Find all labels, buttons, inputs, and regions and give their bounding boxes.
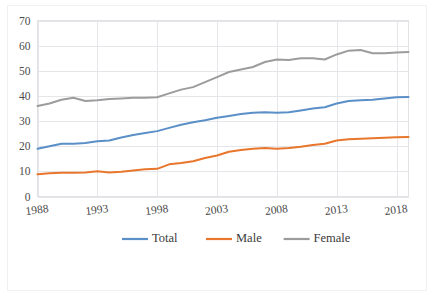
y-axis-tick-label: 40	[19, 90, 31, 102]
legend-label-female: Female	[314, 231, 351, 245]
legend-label-total: Total	[152, 231, 178, 245]
y-axis-tick-label: 70	[19, 15, 31, 27]
chart-legend: TotalMaleFemale	[122, 231, 351, 245]
x-axis-tick-label: 1998	[145, 202, 170, 217]
x-axis-tick-label: 1988	[25, 202, 50, 217]
y-axis-tick-label: 60	[19, 40, 31, 52]
legend-item-total[interactable]: Total	[122, 231, 178, 245]
y-axis-tick-label: 10	[19, 165, 31, 177]
x-axis-tick-label: 2018	[384, 202, 409, 217]
y-axis-tick-label: 0	[25, 191, 31, 203]
y-axis-tick-label: 20	[19, 140, 31, 152]
legend-label-male: Male	[236, 231, 262, 245]
legend-item-female[interactable]: Female	[284, 231, 351, 245]
x-axis-tick-label: 2008	[264, 202, 289, 217]
chart-figure: 010203040506070 198819931998200320082013…	[0, 0, 435, 298]
y-axis-tick-label: 30	[19, 115, 31, 127]
y-axis-tick-labels: 010203040506070	[19, 15, 31, 203]
x-axis-tick-label: 2013	[324, 202, 349, 217]
x-axis-tick-label: 2003	[204, 202, 229, 217]
series-line-total	[38, 97, 409, 149]
data-series-group	[38, 50, 409, 174]
x-axis-tick-label: 1993	[85, 202, 110, 217]
chart-canvas: 010203040506070 198819931998200320082013…	[0, 0, 435, 298]
legend-item-male[interactable]: Male	[206, 231, 262, 245]
y-axis-tick-label: 50	[19, 65, 31, 77]
line-chart: 010203040506070 198819931998200320082013…	[0, 0, 435, 298]
series-line-female	[38, 50, 409, 106]
x-axis-tick-labels: 1988199319982003200820132018	[25, 202, 409, 217]
